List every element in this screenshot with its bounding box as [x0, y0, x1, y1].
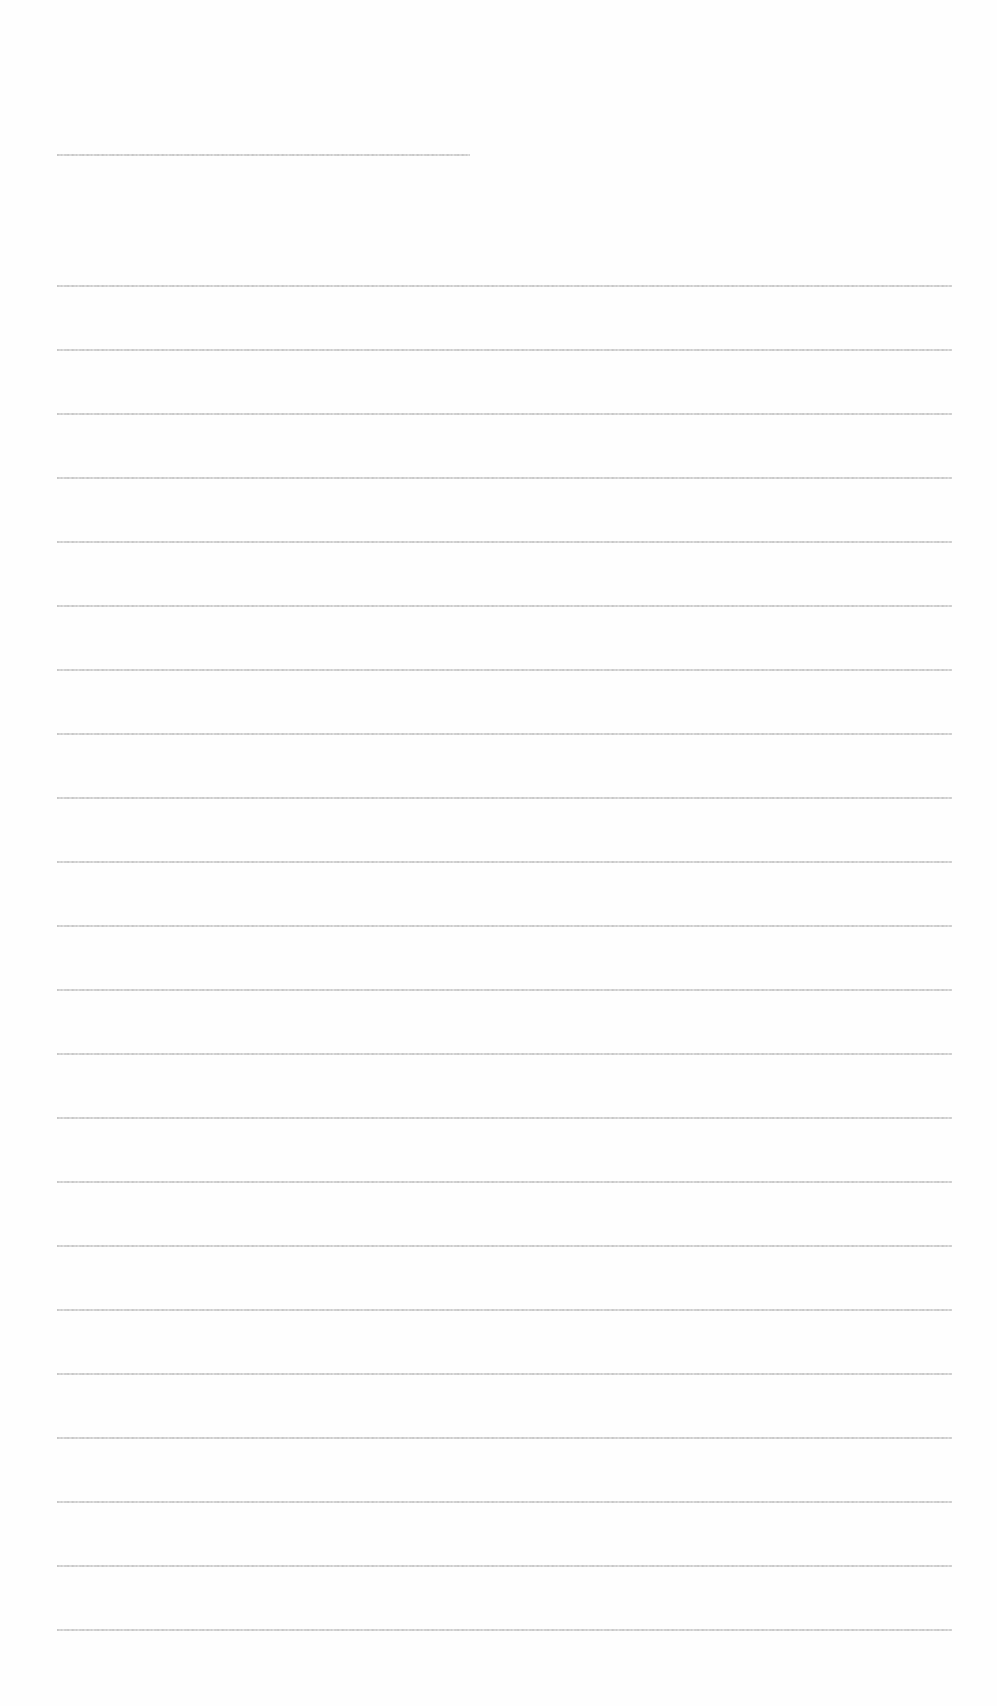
body-text-line-content	[57, 285, 58, 286]
body-text-line	[57, 1565, 952, 1567]
body-text-line	[57, 349, 952, 351]
body-text-line-content	[57, 1181, 58, 1182]
body-text-line-content	[57, 349, 58, 350]
body-text-line-content	[57, 413, 58, 414]
heading-line	[57, 154, 470, 156]
body-text-line	[57, 605, 952, 607]
body-text-line	[57, 413, 952, 415]
body-text-line	[57, 1373, 952, 1375]
body-text-line	[57, 477, 952, 479]
body-text-line-content	[57, 1565, 58, 1566]
body-text-line-content	[57, 477, 58, 478]
body-text-line	[57, 1501, 952, 1503]
document-page	[0, 0, 997, 1706]
body-text-line-content	[57, 861, 58, 862]
body-text-line	[57, 1117, 952, 1119]
body-text-line	[57, 541, 952, 543]
body-text-line	[57, 989, 952, 991]
body-text-line-content	[57, 733, 58, 734]
body-text-line	[57, 1437, 952, 1439]
body-text-line	[57, 1245, 952, 1247]
body-text-line	[57, 285, 952, 287]
body-text-line-content	[57, 541, 58, 542]
body-text-line	[57, 669, 952, 671]
body-text-line-content	[57, 1309, 58, 1310]
body-text-line-content	[57, 989, 58, 990]
body-text-line	[57, 1309, 952, 1311]
body-text-line-content	[57, 1629, 58, 1630]
body-text-line	[57, 861, 952, 863]
body-text-line-content	[57, 1373, 58, 1374]
body-text-line-content	[57, 1053, 58, 1054]
body-text-line	[57, 1181, 952, 1183]
body-text-line-content	[57, 1117, 58, 1118]
heading-line-text	[57, 154, 58, 155]
body-text-line-content	[57, 1501, 58, 1502]
body-text-line	[57, 1629, 952, 1631]
body-text-line-content	[57, 605, 58, 606]
body-text-line-content	[57, 1245, 58, 1246]
body-text-line-content	[57, 797, 58, 798]
body-text-line	[57, 925, 952, 927]
body-text-line-content	[57, 669, 58, 670]
body-text-line	[57, 1053, 952, 1055]
body-text-line	[57, 733, 952, 735]
body-text-line	[57, 797, 952, 799]
body-text-line-content	[57, 1437, 58, 1438]
body-text-line-content	[57, 925, 58, 926]
